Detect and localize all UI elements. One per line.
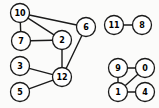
graph-node-8: 8 [133, 16, 152, 35]
graph-node-circle-12 [53, 68, 72, 87]
graph-edge-0-1 [125, 74, 138, 85]
graph-node-circle-6 [77, 18, 96, 37]
graph-node-circle-9 [109, 59, 128, 78]
graph-node-5: 5 [11, 83, 30, 102]
graph-node-7: 7 [12, 32, 31, 51]
graph-edge-10-2 [28, 18, 54, 35]
graph-node-4: 4 [136, 83, 155, 102]
graph-node-circle-1 [109, 83, 128, 102]
graph-node-circle-3 [11, 57, 30, 76]
graph-node-12: 12 [53, 68, 72, 87]
graph-node-3: 3 [11, 57, 30, 76]
graph-node-1: 1 [109, 83, 128, 102]
graph-edge-7-2 [31, 40, 53, 41]
graph-node-11: 11 [105, 16, 124, 35]
graph-node-6: 6 [77, 18, 96, 37]
graph-node-circle-2 [53, 31, 72, 50]
graph-node-2: 2 [53, 31, 72, 50]
graph-edge-5-12 [29, 80, 53, 89]
graph-diagram: 1072631251189014 [0, 0, 159, 108]
graph-canvas: 1072631251189014 [0, 0, 159, 108]
graph-node-10: 10 [11, 4, 30, 23]
graph-node-circle-4 [136, 83, 155, 102]
graph-node-circle-11 [105, 16, 124, 35]
graph-node-9: 9 [109, 59, 128, 78]
node-layer: 1072631251189014 [11, 4, 155, 102]
graph-node-circle-0 [136, 59, 155, 78]
graph-node-0: 0 [136, 59, 155, 78]
graph-node-circle-7 [12, 32, 31, 51]
graph-edge-3-12 [29, 68, 53, 74]
graph-node-circle-10 [11, 4, 30, 23]
graph-node-circle-5 [11, 83, 30, 102]
graph-node-circle-8 [133, 16, 152, 35]
